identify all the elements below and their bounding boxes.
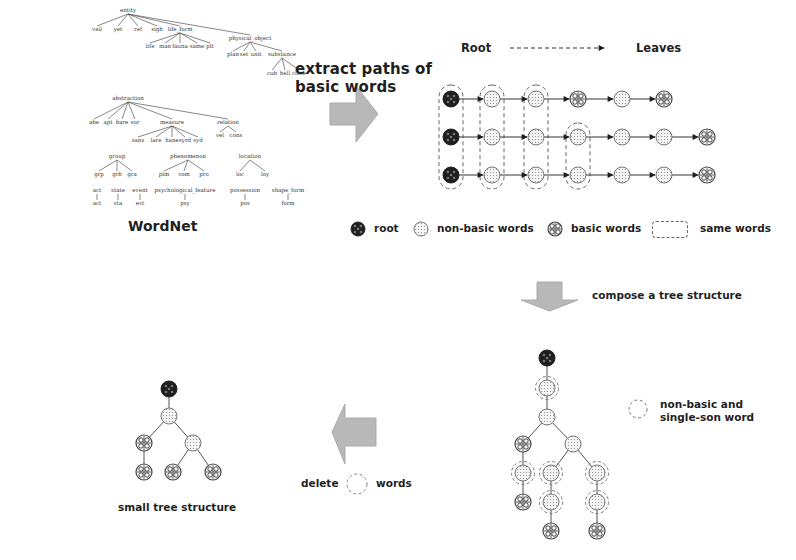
wordnet-node-label: group (109, 153, 126, 160)
basic-word-node (548, 222, 562, 236)
basic-word-node (570, 91, 586, 107)
basic-word-node (699, 167, 715, 183)
wordnet-node-label: form (281, 200, 295, 206)
root-word-node (539, 350, 555, 366)
composed-tree-diagram (512, 350, 609, 539)
wordnet-node-label: entity (120, 7, 137, 14)
wordnet-node-label: grp (94, 171, 104, 178)
wordnet-node-label: cub (267, 70, 278, 76)
nonbasic-word-node (484, 91, 500, 107)
wordnet-node-label: bell (280, 70, 291, 76)
wordnet-node-label: sta (114, 200, 123, 206)
wordnet-node-label: man (159, 43, 171, 49)
wordnet-node-label: evt (136, 200, 145, 206)
leaves-label: Leaves (636, 41, 681, 55)
legend-root-label: root (374, 222, 399, 234)
wordnet-node-label: shape_form (272, 187, 305, 194)
wordnet-node-label: sor (131, 119, 140, 125)
nonbasic-word-node (570, 167, 586, 183)
single-son-line1: non-basic and (660, 398, 754, 411)
wordnet-node-label: act (93, 187, 102, 193)
wordnet-node-label: syrd (179, 137, 192, 144)
basic-word-node (589, 523, 605, 539)
wordnet-node-label: measure (160, 119, 184, 125)
nonbasic-word-node (565, 436, 581, 452)
nonbasic-word-node (528, 129, 544, 145)
wordnet-node-label: act (93, 200, 102, 206)
single-son-line2: single-son word (660, 411, 754, 424)
legend-nonbasic-label: non-basic words (437, 222, 534, 234)
wordnet-node-label: hane (165, 137, 179, 143)
root-word-node (443, 129, 459, 145)
single-son-legend-label: non-basic and single-son word (660, 398, 754, 424)
wordnet-node-label: sans (132, 137, 145, 143)
basic-word-node (515, 494, 531, 510)
wordnet-node-label: relation (217, 119, 239, 125)
basic-word-node (656, 91, 672, 107)
root-label: Root (461, 41, 491, 55)
wordnet-node-label: lare (151, 137, 162, 143)
wordnet-node-label: set (240, 51, 249, 57)
nonbasic-word-node (589, 494, 605, 510)
legend-basic-label: basic words (571, 222, 641, 234)
basic-word-node (515, 436, 531, 452)
nonbasic-word-node (185, 435, 201, 451)
wordnet-node-label: physical_object (229, 35, 272, 42)
basic-word-node (699, 129, 715, 145)
single-son-legend-icon (629, 400, 647, 418)
down-arrow-icon (521, 282, 578, 311)
wordnet-node-label: psychological_feature (155, 187, 216, 194)
wordnet-node-label: abe (89, 119, 99, 125)
wordnet-node-label: location (239, 153, 262, 159)
wordnet-node-label: life (146, 43, 155, 49)
wordnet-node-label: fauna (172, 43, 188, 49)
wordnet-node-label: gra (127, 171, 137, 178)
nonbasic-word-node (484, 167, 500, 183)
words-label: words (376, 477, 412, 489)
wordnet-node-label: vom (177, 171, 190, 177)
wordnet-node-label: plan (227, 51, 240, 58)
wordnet-node-label: veil (91, 26, 102, 32)
process-arrows (330, 48, 647, 494)
word-paths-diagram (439, 85, 715, 189)
wordnet-node-label: loy (261, 171, 270, 178)
basic-word-node (136, 435, 152, 451)
wordnet-node-label: pos (240, 200, 250, 207)
nonbasic-word-node (614, 129, 630, 145)
nonbasic-word-node (589, 465, 605, 481)
wordnet-node-label: loc (236, 171, 244, 177)
nonbasic-word-node (570, 129, 586, 145)
extract-paths-line1: extract paths of (295, 60, 432, 78)
nonbasic-word-node (614, 167, 630, 183)
basic-word-node (136, 464, 152, 480)
wordnet-node-label: possession (230, 187, 260, 194)
wordnet-node-label: pro (199, 171, 209, 178)
nonbasic-word-node (543, 465, 559, 481)
extract-paths-line2: basic words (295, 78, 432, 96)
nonbasic-word-node (484, 129, 500, 145)
wordnet-node-label: unit (250, 51, 262, 57)
small-tree-title: small tree structure (118, 501, 236, 513)
root-word-node (443, 167, 459, 183)
root-word-node (443, 91, 459, 107)
wordnet-node-label: plm (159, 171, 170, 178)
basic-word-node (165, 464, 181, 480)
basic-word-node (205, 464, 221, 480)
wordnet-node-label: grb (112, 171, 122, 178)
root-word-node (161, 381, 177, 397)
wordnet-node-label: hare (116, 119, 129, 125)
wordnet-node-label: life_form (168, 26, 194, 33)
basic-word-node (543, 523, 559, 539)
nonbasic-word-node (515, 465, 531, 481)
nonbasic-word-node (528, 91, 544, 107)
compose-tree-label: compose a tree structure (592, 289, 742, 301)
wordnet-node-label: sigh (151, 26, 163, 33)
delete-label: delete (301, 477, 339, 489)
wordnet-node-label: ref (134, 26, 143, 32)
nonbasic-word-node (528, 167, 544, 183)
wordnet-title: WordNet (128, 218, 197, 234)
extract-paths-label: extract paths of basic words (295, 60, 432, 96)
nonbasic-word-node (539, 380, 555, 396)
delete-dashed-circle-icon (347, 474, 367, 494)
nonbasic-word-node (161, 408, 177, 424)
